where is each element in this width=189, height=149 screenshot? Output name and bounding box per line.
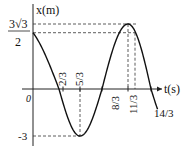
origin-label: 0 bbox=[26, 93, 31, 104]
t-axis-arrow-icon bbox=[157, 87, 162, 92]
t-tick-label: 8/3 bbox=[109, 95, 121, 110]
t-tick-label: 14/3 bbox=[154, 107, 174, 119]
initial-value-denominator: 2 bbox=[15, 35, 21, 49]
t-tick-label: 2/3 bbox=[56, 71, 68, 86]
xt-graph: x(m) t(s) 0 3√3 2 -3 2/35/38/311/314/3 bbox=[0, 0, 189, 149]
displacement-curve bbox=[33, 24, 158, 136]
y-axis-label: x(m) bbox=[36, 3, 59, 17]
initial-value-numerator: 3√3 bbox=[9, 17, 28, 31]
t-tick-label: 5/3 bbox=[73, 71, 85, 86]
t-axis-label: t(s) bbox=[164, 82, 180, 96]
y-tick-label-min: -3 bbox=[18, 130, 28, 142]
t-tick-label: 11/3 bbox=[127, 94, 139, 114]
